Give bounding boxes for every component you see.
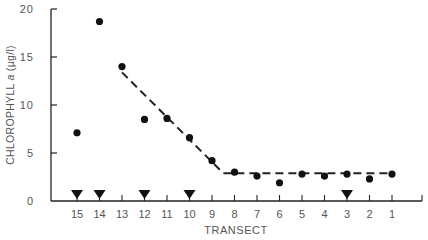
- data-point: [276, 179, 283, 186]
- data-point: [231, 169, 238, 176]
- y-tick-label: 0: [27, 195, 34, 207]
- x-tick-label: 7: [254, 208, 260, 220]
- data-point: [366, 175, 373, 182]
- x-axis: 151413121110987654321: [51, 195, 422, 220]
- data-point: [163, 115, 170, 122]
- y-axis-label-unit: (µg/l): [4, 45, 16, 74]
- y-tick-label: 15: [20, 51, 34, 63]
- dashed-fit-line: [122, 72, 392, 173]
- y-axis: 05101520: [20, 3, 57, 207]
- x-tick-label: 13: [116, 208, 128, 220]
- x-tick-label: 10: [183, 208, 195, 220]
- x-tick-label: 15: [71, 208, 83, 220]
- data-point: [186, 134, 193, 141]
- x-tick-label: 12: [138, 208, 150, 220]
- data-point: [118, 63, 125, 70]
- data-point: [141, 116, 148, 123]
- data-point: [73, 129, 80, 136]
- data-point: [253, 172, 260, 179]
- triangle-down-icon: [139, 190, 151, 199]
- triangle-down-icon: [71, 190, 83, 199]
- x-tick-label: 2: [366, 208, 372, 220]
- x-tick-label: 3: [344, 208, 350, 220]
- x-tick-label: 6: [276, 208, 282, 220]
- x-tick-label: 14: [93, 208, 105, 220]
- y-axis-label-main: CHLOROPHYLL: [4, 80, 16, 164]
- y-tick-label: 10: [20, 99, 34, 111]
- data-point: [96, 18, 103, 25]
- data-points: [73, 18, 395, 186]
- triangle-down-icon: [184, 190, 196, 199]
- data-point: [388, 171, 395, 178]
- data-point: [321, 172, 328, 179]
- x-tick-label: 11: [161, 208, 172, 220]
- triangle-down-icon: [341, 190, 353, 199]
- x-tick-label: 1: [389, 208, 395, 220]
- y-tick-label: 5: [27, 147, 34, 159]
- x-axis-label: TRANSECT: [204, 224, 267, 236]
- data-point: [208, 157, 215, 164]
- chlorophyll-chart: 05101520 151413121110987654321 TRANSECT …: [0, 0, 428, 240]
- y-tick-label: 20: [20, 3, 34, 15]
- triangle-down-icon: [94, 190, 106, 199]
- data-point: [343, 171, 350, 178]
- x-tick-label: 9: [209, 208, 215, 220]
- data-point: [298, 171, 305, 178]
- x-tick-label: 8: [231, 208, 237, 220]
- x-tick-label: 5: [299, 208, 305, 220]
- y-axis-label: CHLOROPHYLL a (µg/l): [4, 45, 16, 165]
- x-tick-label: 4: [321, 208, 327, 220]
